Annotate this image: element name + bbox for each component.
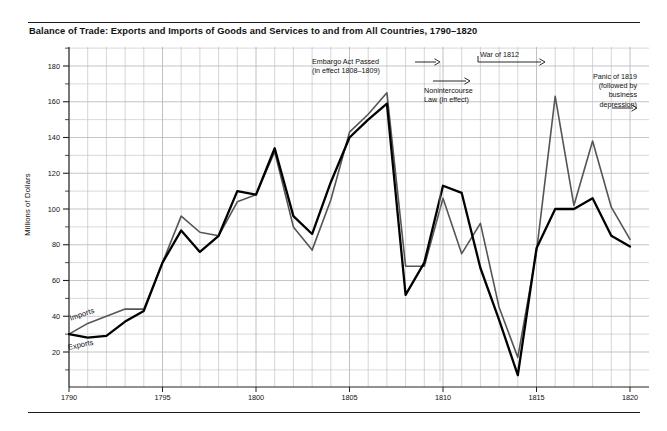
annotation-line: Nonintercourse <box>424 86 473 95</box>
annotation-panic-of-1819: Panic of 1819(followed bybusinessdepress… <box>565 72 637 109</box>
annotation-line: Embargo Act Passed <box>312 57 380 66</box>
y-tick-label-20: 20 <box>36 348 60 357</box>
y-tick-label-60: 60 <box>36 276 60 285</box>
vertical-gridlines <box>69 47 630 387</box>
y-axis-title: Millions of Dollars <box>23 160 32 250</box>
chart-page: Balance of Trade: Exports and Imports of… <box>0 0 667 431</box>
x-tick-label-1800: 1800 <box>236 393 276 402</box>
annotation-line: business <box>565 90 637 99</box>
x-tick-label-1805: 1805 <box>330 393 370 402</box>
annotation-line: (in effect 1808–1809) <box>312 66 380 75</box>
annotation-nonintercourse-law: NonintercourseLaw (in effect) <box>424 86 473 104</box>
y-tick-label-180: 180 <box>36 62 60 71</box>
x-tick-label-1795: 1795 <box>143 393 183 402</box>
y-tick-label-80: 80 <box>36 240 60 249</box>
x-tick-label-1820: 1820 <box>610 393 650 402</box>
axis-lines <box>69 47 649 387</box>
axis-ticks <box>63 48 630 392</box>
x-tick-label-1815: 1815 <box>517 393 557 402</box>
arrow-embargo <box>415 59 440 65</box>
y-tick-label-40: 40 <box>36 312 60 321</box>
annotation-war-of-1812: War of 1812 <box>480 50 519 59</box>
annotation-line: War of 1812 <box>480 50 519 59</box>
x-tick-label-1810: 1810 <box>423 393 463 402</box>
arrow-war1812 <box>478 59 545 65</box>
plot-area: Millions of Dollars 20406080100120140160… <box>0 0 667 431</box>
annotation-line: Panic of 1819 <box>565 72 637 81</box>
y-tick-label-120: 120 <box>36 169 60 178</box>
arrow-nonintercourse <box>433 78 470 84</box>
bottom-rule <box>28 412 640 413</box>
y-tick-label-160: 160 <box>36 97 60 106</box>
annotation-line: Law (in effect) <box>424 95 473 104</box>
y-tick-label-140: 140 <box>36 133 60 142</box>
x-tick-label-1790: 1790 <box>49 393 89 402</box>
annotation-embargo-act: Embargo Act Passed(in effect 1808–1809) <box>312 57 380 75</box>
annotation-line: depression) <box>565 100 637 109</box>
y-tick-label-100: 100 <box>36 205 60 214</box>
annotation-line: (followed by <box>565 81 637 90</box>
